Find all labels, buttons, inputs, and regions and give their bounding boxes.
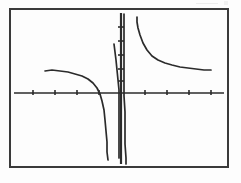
plot-figure bbox=[0, 0, 241, 183]
graph-screenshot bbox=[0, 0, 241, 183]
scan-artifact bbox=[224, 1, 228, 5]
scan-artifact bbox=[196, 3, 218, 4]
